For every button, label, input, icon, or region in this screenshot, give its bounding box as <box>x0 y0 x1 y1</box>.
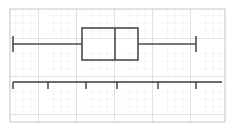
graph-paper-grid <box>10 9 225 122</box>
figure-canvas <box>0 0 235 130</box>
box-plot-figure <box>0 0 235 130</box>
